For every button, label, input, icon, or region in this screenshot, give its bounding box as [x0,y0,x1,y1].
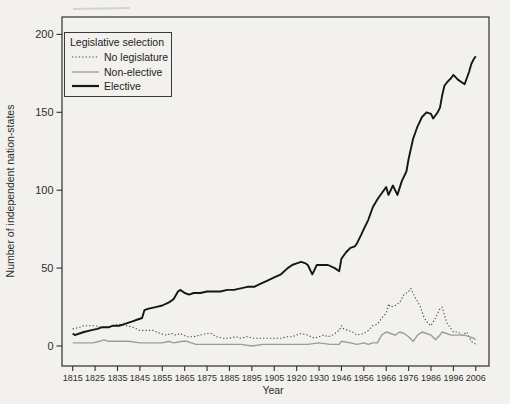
legend: Legislative selection No legislatureNon-… [64,32,172,97]
legend-item-label: Elective [104,80,141,92]
y-tick-label: 100 [35,184,53,196]
x-tick-label: 1815 [63,373,83,383]
figure: 0501001502001815182518351845185518651875… [0,0,510,404]
x-tick-label: 1855 [152,373,172,383]
legend-item-label: No legislature [104,51,168,63]
x-tick-label: 1966 [376,373,396,383]
x-tick-label: 2006 [466,373,486,383]
x-tick-label: 1920 [287,373,307,383]
x-tick-label: 1905 [264,373,284,383]
legend-item: No legislature [70,50,171,65]
y-tick-label: 0 [47,340,53,352]
x-axis-title: Year [262,384,284,396]
x-tick-label: 1875 [197,373,217,383]
series-lines [73,56,476,346]
y-tick-label: 200 [35,28,53,40]
x-tick-label: 1885 [219,373,239,383]
legend-item-label: Non-elective [104,66,162,78]
scan-artifact [73,8,130,9]
x-tick-label: 1956 [354,373,374,383]
legend-item: Elective [70,79,171,94]
x-tick-label: 1825 [85,373,105,383]
x-tick-label: 1845 [130,373,150,383]
x-tick-label: 1996 [443,373,463,383]
series-no-legislature [73,288,476,344]
x-tick-label: 1865 [175,373,195,383]
y-tick-label: 150 [35,106,53,118]
y-tick-label: 50 [41,262,53,274]
series-elective [73,56,476,335]
y-axis-title: Number of independent nation-states [4,105,16,278]
series-non-elective [73,332,476,346]
legend-title: Legislative selection [70,36,171,48]
legend-items: No legislatureNon-electiveElective [70,50,171,94]
x-tick-label: 1986 [421,373,441,383]
x-tick-label: 1976 [399,373,419,383]
x-tick-label: 1895 [242,373,262,383]
legend-line-swatch-dotted [71,53,100,61]
legend-line-swatch-solid-thin [71,68,100,76]
legend-line-swatch-solid-thick [71,82,100,90]
x-tick-label: 1835 [107,373,127,383]
legend-item: Non-elective [70,65,171,80]
x-tick-label: 1930 [309,373,329,383]
x-tick-label: 1946 [331,373,351,383]
